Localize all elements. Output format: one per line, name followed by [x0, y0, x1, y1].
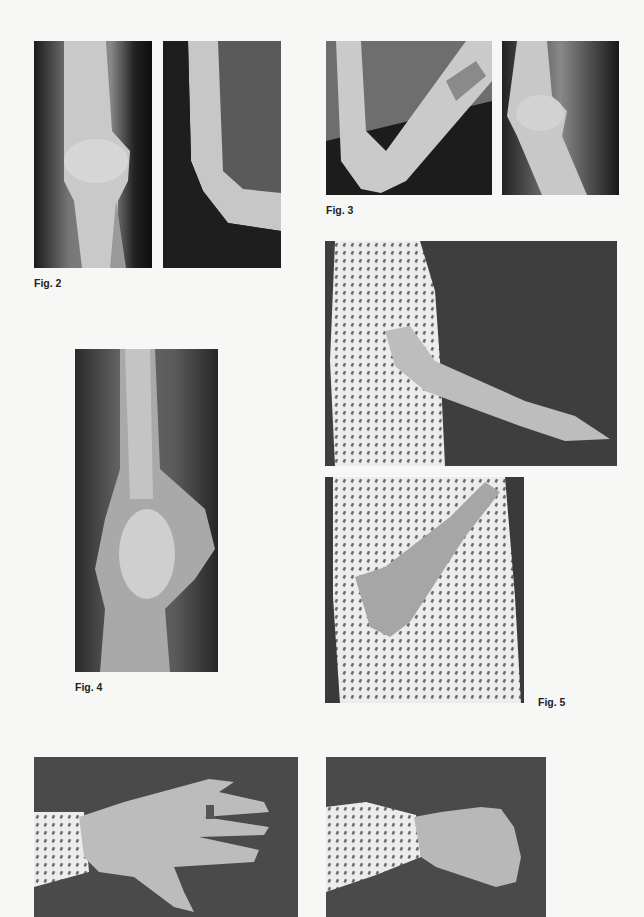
fig3-panel-a-xray — [326, 41, 492, 195]
fig6-panel-b-photo-fist — [326, 757, 546, 917]
fig2-panel-b-xray — [163, 41, 281, 268]
fig5-panel-b-photo — [325, 477, 524, 703]
fig2-panel-a-xray — [34, 41, 152, 268]
fig6-panel-a-photo-hand-open — [34, 757, 298, 917]
fig4-caption: Fig. 4 — [75, 681, 102, 693]
fig5-caption: Fig. 5 — [538, 696, 565, 708]
fig4-panel-xray — [75, 349, 218, 672]
fig3-caption: Fig. 3 — [326, 204, 353, 216]
fig5-panel-a-photo — [325, 241, 617, 466]
fig3-panel-b-xray — [502, 41, 619, 195]
fig2-caption: Fig. 2 — [34, 277, 61, 289]
